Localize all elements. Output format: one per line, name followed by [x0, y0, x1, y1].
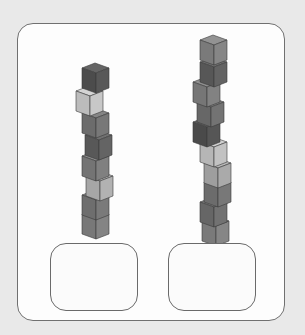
right-tower: [193, 35, 231, 246]
cube: [200, 35, 227, 65]
left-answer-box[interactable]: [50, 243, 138, 311]
cube: [82, 63, 109, 93]
right-answer-box[interactable]: [168, 243, 256, 311]
cube-towers: [0, 0, 305, 335]
left-tower: [76, 63, 113, 239]
